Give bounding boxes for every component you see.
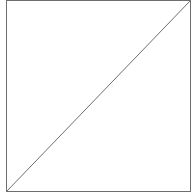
square-diagonal-figure (0, 0, 191, 192)
diagram-canvas (0, 0, 191, 192)
